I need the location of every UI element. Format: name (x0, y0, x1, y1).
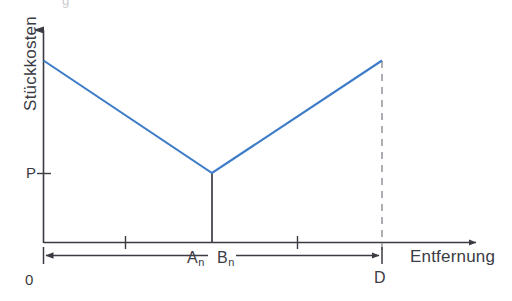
origin-label: 0 (25, 272, 33, 287)
chart-figure: ′ g (0, 0, 512, 301)
cost-curve-group (44, 61, 383, 174)
x-label-bn-subscript: n (228, 256, 234, 268)
y-axis-title: Stückkosten (22, 4, 39, 124)
x-label-an: An (187, 250, 204, 266)
tick-group (37, 174, 298, 250)
y-tick-label-p: P (26, 165, 36, 180)
dimension-arrow-group (44, 247, 383, 264)
x-axis-title: Entfernung (410, 248, 495, 265)
x-label-an-main: A (187, 249, 198, 266)
x-label-bn: Bn (217, 250, 234, 266)
x-label-bn-main: B (217, 249, 228, 266)
drop-line-group (212, 61, 382, 255)
unit-cost-curve (44, 61, 383, 174)
axis-group (44, 30, 477, 243)
x-label-d: D (374, 270, 386, 286)
x-label-an-subscript: n (198, 256, 204, 268)
